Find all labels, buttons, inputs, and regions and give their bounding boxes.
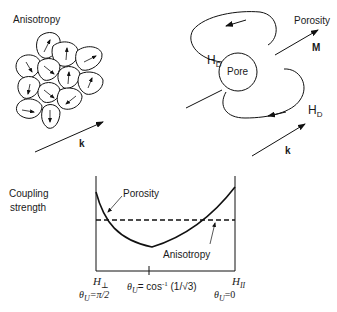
porosity-title: Porosity — [294, 15, 330, 27]
y-axis-label-line1: Coupling — [9, 188, 48, 200]
porosity-k-arrow — [252, 124, 305, 156]
x-right-angle-label: θU=0 — [214, 289, 235, 305]
magnetization-label: M — [312, 42, 320, 54]
anisotropy-k-label: k — [79, 138, 85, 150]
grain-cluster — [16, 33, 103, 129]
x-left-angle-label: θU=π/2 — [79, 289, 109, 305]
pore-label: Pore — [227, 66, 248, 78]
anisotropy-curve-label: Anisotropy — [163, 249, 210, 261]
y-axis-label-line2: strength — [10, 202, 46, 214]
x-mid-angle-label: θU= cos-1 (1/√3) — [127, 278, 197, 297]
demag-field-line-top — [191, 12, 276, 62]
porosity-leader — [108, 196, 122, 212]
porosity-curve — [96, 187, 235, 247]
anisotropy-k-arrow — [35, 122, 103, 152]
anisotropy-title: Anisotropy — [13, 14, 60, 26]
porosity-curve-label: Porosity — [123, 188, 159, 200]
anisotropy-leader — [210, 223, 215, 244]
porosity-left-line — [186, 90, 222, 108]
porosity-k-label: k — [285, 145, 291, 157]
demag-field-label-top: HD — [207, 54, 221, 71]
demag-field-label-bottom: HD — [308, 104, 322, 121]
